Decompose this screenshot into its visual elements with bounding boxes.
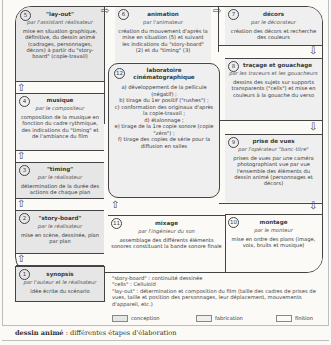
step-actor: par l'ingénieur du son — [111, 228, 222, 234]
step-number: 9 — [228, 137, 239, 148]
lab-item: e) tirage de la 1re copie sonore (copie … — [113, 123, 215, 136]
arrow-right-icon: ⇨ — [101, 6, 109, 16]
step-actor: par l'animateur — [118, 19, 208, 25]
divider — [219, 120, 323, 121]
step-description: création des décors et recherche des cou… — [228, 28, 319, 41]
divider — [225, 214, 226, 272]
arrow-up-icon: ⇧ — [17, 199, 25, 209]
caption-title: dessin animé — [15, 329, 64, 337]
step-title: mixage — [111, 220, 222, 226]
step-title: laboratoire cinématographique — [113, 67, 215, 81]
swatch-conception — [112, 315, 128, 322]
divider — [16, 150, 104, 151]
step-title: "story-board" — [19, 215, 101, 221]
step-number: 4 — [19, 96, 30, 107]
legend-item-fabrication: fabrication — [196, 315, 243, 322]
lab-item: b) tirage du 1er positif ("rushes") ; — [113, 97, 215, 104]
divider — [219, 45, 323, 46]
step-description: dessins des sujets sur supports transpar… — [228, 79, 319, 98]
step-actor: par l'assistant réalisateur — [19, 19, 101, 25]
step-title: synopsis — [19, 271, 101, 277]
step-title: animation — [118, 11, 208, 17]
step-synopsis: 1 synopsis par l'auteur et le réalisateu… — [15, 266, 105, 302]
step-montage: 10 montage par le monteur mise en ordre … — [225, 214, 322, 272]
step-story-board: 2 "story-board" par le réalisateur mise … — [16, 211, 104, 253]
step-number: 11 — [111, 218, 122, 229]
step-title: décors — [228, 11, 319, 17]
step-actor: par le réalisateur — [19, 174, 101, 180]
step-description: détermination de la durée des actions de… — [19, 183, 101, 196]
step-mixage: 11 mixage par l'ingénieur du son assembl… — [108, 215, 225, 272]
step-number: 2 — [19, 213, 30, 224]
legend: conception fabrication finition — [108, 315, 328, 323]
step-decors: 7 décors par le décorateur création des … — [225, 7, 322, 45]
step-title: musique — [19, 97, 101, 103]
step-actor: par le décorateur — [228, 19, 319, 25]
step-description: idée écrite du scénario — [19, 288, 101, 294]
step-title: "timing" — [19, 166, 101, 172]
lab-item: f) tirage des copies de série pour la di… — [113, 136, 215, 149]
step-number: 3 — [19, 165, 30, 176]
arrow-down-icon: ⇩ — [309, 46, 317, 56]
step-animation: 6 animation par l'animateur création du … — [115, 7, 211, 62]
lab-item: a) développement de la pellicule (négati… — [113, 84, 215, 97]
swatch-finition — [276, 315, 292, 322]
arrow-down-icon: ⇩ — [309, 122, 317, 132]
legend-label: fabrication — [215, 315, 243, 321]
divider — [104, 62, 105, 124]
step-timing: 3 "timing" par le réalisateur déterminat… — [16, 163, 104, 198]
step-description: prises de vues par une caméra photograph… — [228, 155, 319, 187]
glossary: "story-board" : continuité dessinée "cel… — [112, 275, 327, 307]
swatch-fabrication — [196, 315, 212, 322]
step-description: mise en ordre des plans (image, voix, br… — [228, 236, 319, 249]
step-number: 6 — [118, 9, 129, 20]
divider — [16, 253, 104, 254]
step-title: "lay-out" — [19, 11, 101, 17]
step-prise-de-vues: 9 prise de vues par l'opérateur "banc-ti… — [225, 134, 322, 202]
divider — [16, 81, 104, 82]
arrow-up-icon: ⇧ — [17, 254, 25, 264]
step-number: 5 — [20, 10, 31, 21]
step-description: assemblage des différents éléments sonor… — [111, 237, 222, 250]
step-actor: par le monteur — [228, 227, 319, 233]
step-lay-out: 5 "lay-out" par l'assistant réalisateur … — [16, 7, 104, 81]
figure-caption: dessin animé : différentes étapes d'élab… — [15, 329, 177, 337]
glossary-item: "lay-out" : détermination et composition… — [112, 288, 327, 307]
arrow-up-icon: ⇧ — [17, 151, 25, 161]
step-actor: par l'auteur et le réalisateur — [19, 279, 101, 285]
step-number: 7 — [228, 9, 239, 20]
step-musique: 4 musique par le compositeur composition… — [16, 94, 104, 150]
step-title: traçage et gouachage — [228, 62, 319, 68]
legend-label: conception — [131, 315, 160, 321]
step-title: prise de vues — [228, 138, 319, 144]
step-number: 10 — [228, 217, 239, 228]
step-actor: par le compositeur — [19, 105, 101, 111]
caption-text: : différentes étapes d'élaboration — [64, 329, 177, 337]
divider — [16, 198, 104, 199]
legend-item-finition: finition — [276, 315, 313, 322]
caption-rule — [2, 340, 329, 341]
divider — [219, 203, 323, 204]
step-description: composition de la musique en fonction du… — [19, 114, 101, 140]
arrow-right-icon: ⇨ — [213, 6, 221, 16]
arrow-up-icon: ⇧ — [17, 83, 25, 93]
step-actor: par les traceurs et les gouacheurs — [228, 70, 319, 76]
arrow-up-icon: ⇧ — [111, 200, 119, 210]
step-description: création du mouvement d'après la mise en… — [118, 28, 208, 54]
legend-label: finition — [295, 315, 313, 321]
lab-item: c) conformation des originaux d'après la… — [113, 104, 215, 117]
step-actor: par l'opérateur "banc-titre" — [228, 146, 319, 152]
legend-item-conception: conception — [112, 315, 160, 322]
step-tracage-gouachage: 8 traçage et gouachage par les traceurs … — [225, 58, 322, 120]
step-number: 8 — [228, 61, 239, 72]
step-laboratoire: 12 laboratoire cinématographique a) déve… — [108, 63, 220, 198]
step-actor: par le réalisateur — [19, 223, 101, 229]
step-title: montage — [228, 219, 319, 225]
step-description: mise en scène, dessinée, plan par plan — [19, 232, 101, 245]
step-number: 1 — [19, 269, 30, 280]
step-description: mise en situation graphique, définitive,… — [19, 28, 101, 60]
step-number: 12 — [114, 68, 125, 79]
